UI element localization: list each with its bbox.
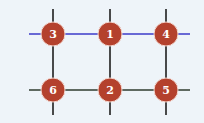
node-6: 6 — [41, 78, 65, 102]
node-label: 2 — [106, 84, 114, 97]
node-label: 6 — [49, 84, 57, 97]
grid-diagram: 3 1 4 6 2 5 — [0, 0, 204, 123]
node-5: 5 — [154, 78, 178, 102]
node-1: 1 — [98, 22, 122, 46]
node-4: 4 — [154, 22, 178, 46]
node-2: 2 — [98, 78, 122, 102]
node-label: 5 — [162, 84, 170, 97]
node-label: 4 — [162, 28, 170, 41]
node-label: 1 — [106, 28, 114, 41]
node-3: 3 — [41, 22, 65, 46]
diagram-canvas: 3 1 4 6 2 5 — [0, 0, 204, 123]
node-label: 3 — [49, 28, 57, 41]
